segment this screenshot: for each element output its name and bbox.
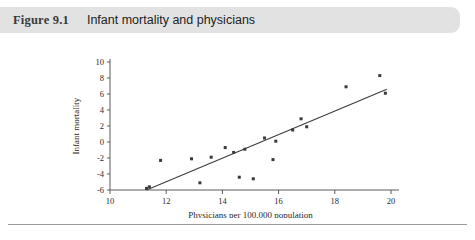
- y-tick-label: 10: [96, 57, 105, 67]
- x-axis-title: Physicians per 100,000 population: [188, 210, 313, 218]
- data-point: [291, 129, 294, 132]
- data-point: [252, 177, 255, 180]
- y-axis-title: Infant mortality: [71, 97, 81, 154]
- scatter-plot: -6-4-20246810 101214161820 Physicians pe…: [0, 33, 475, 218]
- y-axis-ticks: -6-4-20246810: [96, 57, 111, 195]
- data-point: [224, 146, 227, 149]
- data-point: [378, 74, 381, 77]
- data-point: [274, 140, 277, 143]
- figure-header-bar: Figure 9.1 Infant mortality and physicia…: [0, 7, 460, 33]
- data-point: [159, 159, 162, 162]
- data-point: [271, 158, 274, 161]
- figure-card: Figure 9.1 Infant mortality and physicia…: [0, 0, 475, 240]
- x-tick-label: 16: [274, 196, 283, 206]
- data-point: [148, 185, 151, 188]
- x-tick-label: 18: [331, 196, 340, 206]
- y-tick-label: 2: [100, 121, 104, 131]
- y-tick-label: -6: [97, 185, 104, 195]
- regression-line: [147, 89, 387, 190]
- y-tick-label: 0: [100, 137, 104, 147]
- x-axis-ticks: 101214161820: [106, 190, 396, 206]
- data-point: [305, 125, 308, 128]
- data-point: [190, 157, 193, 160]
- y-tick-label: 8: [100, 73, 104, 83]
- y-tick-label: 4: [100, 105, 105, 115]
- figure-bottom-rule: [8, 224, 467, 225]
- data-point: [198, 181, 201, 184]
- data-points: [145, 74, 387, 190]
- figure-title-label: Infant mortality and physicians: [87, 13, 255, 27]
- data-point: [238, 176, 241, 179]
- x-tick-label: 12: [162, 196, 171, 206]
- x-tick-label: 14: [218, 196, 227, 206]
- data-point: [243, 148, 246, 151]
- data-point: [345, 85, 348, 88]
- figure-number-label: Figure 9.1: [13, 13, 69, 28]
- x-tick-label: 10: [106, 196, 115, 206]
- y-tick-label: -4: [97, 169, 105, 179]
- data-point: [232, 151, 235, 154]
- data-point: [263, 137, 266, 140]
- chart-canvas: -6-4-20246810 101214161820 Physicians pe…: [0, 33, 475, 218]
- data-point: [210, 156, 213, 159]
- data-point: [300, 117, 303, 120]
- data-point: [145, 187, 148, 190]
- data-point: [384, 92, 387, 95]
- y-tick-label: 6: [100, 89, 104, 99]
- x-tick-label: 20: [387, 196, 396, 206]
- y-tick-label: -2: [97, 153, 104, 163]
